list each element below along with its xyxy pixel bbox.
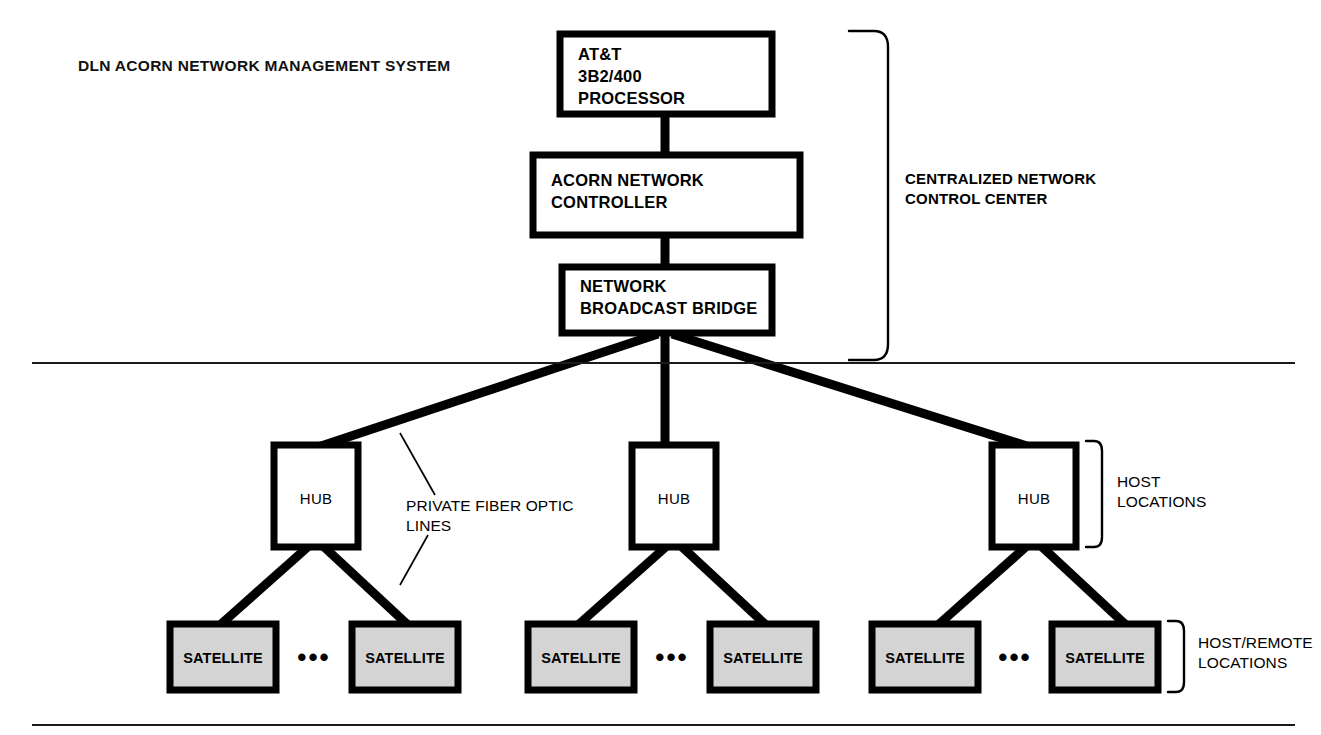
leader-line-fiber-lower <box>400 535 428 585</box>
bracket-host-locations-line1: HOST <box>1117 473 1161 490</box>
node-att-processor-line2: 3B2/400 <box>578 67 642 85</box>
bracket-host-remote-line1: HOST/REMOTE <box>1198 634 1313 651</box>
ellipsis-satellites-left: ••• <box>297 642 330 672</box>
bracket-control-center <box>849 31 888 360</box>
node-satellite-1[interactable]: SATELLITE <box>170 624 276 690</box>
node-satellite-6-label: SATELLITE <box>1065 650 1145 666</box>
node-hub-middle[interactable]: HUB <box>632 445 716 547</box>
node-satellite-1-label: SATELLITE <box>183 650 263 666</box>
ellipsis-satellites-right: ••• <box>998 642 1031 672</box>
link-bridge-hub-left <box>318 334 658 447</box>
link-hub-middle-satellite-2 <box>680 545 766 625</box>
bracket-host-locations <box>1086 441 1102 547</box>
node-hub-left-label: HUB <box>300 490 332 507</box>
node-satellite-5[interactable]: SATELLITE <box>872 624 978 690</box>
bracket-control-center-line1: CENTRALIZED NETWORK <box>905 170 1096 187</box>
node-hub-middle-label: HUB <box>658 490 690 507</box>
node-acorn-controller-line1: ACORN NETWORK <box>551 171 704 189</box>
node-att-processor-line1: AT&T <box>578 45 622 63</box>
link-hub-right-satellite-1 <box>938 545 1028 625</box>
link-hub-left-satellite-1 <box>220 545 310 625</box>
bracket-host-locations-line2: LOCATIONS <box>1117 493 1206 510</box>
node-bridge-line1: NETWORK <box>580 277 667 295</box>
diagram-canvas: DLN ACORN NETWORK MANAGEMENT SYSTEM AT&T… <box>0 0 1321 735</box>
link-bridge-hub-right <box>672 334 1030 447</box>
link-hub-left-satellite-2 <box>322 545 408 625</box>
node-hub-right-label: HUB <box>1018 490 1050 507</box>
node-bridge-line2: BROADCAST BRIDGE <box>580 299 757 317</box>
bracket-host-remote-line2: LOCATIONS <box>1198 654 1287 671</box>
link-hub-right-satellite-2 <box>1040 545 1126 625</box>
node-satellite-4[interactable]: SATELLITE <box>710 624 816 690</box>
node-satellite-2[interactable]: SATELLITE <box>352 624 458 690</box>
node-satellite-3[interactable]: SATELLITE <box>528 624 634 690</box>
node-hub-left[interactable]: HUB <box>274 445 358 547</box>
node-satellite-6[interactable]: SATELLITE <box>1052 624 1158 690</box>
link-hub-middle-satellite-1 <box>578 545 668 625</box>
node-satellite-5-label: SATELLITE <box>885 650 965 666</box>
annotation-fiber-line1: PRIVATE FIBER OPTIC <box>406 497 574 514</box>
network-architecture-diagram: DLN ACORN NETWORK MANAGEMENT SYSTEM AT&T… <box>0 0 1321 735</box>
bracket-control-center-line2: CONTROL CENTER <box>905 190 1048 207</box>
bracket-host-remote-locations <box>1168 621 1184 692</box>
node-network-broadcast-bridge[interactable]: NETWORK BROADCAST BRIDGE <box>562 267 772 333</box>
node-satellite-2-label: SATELLITE <box>365 650 445 666</box>
ellipsis-satellites-middle: ••• <box>655 642 688 672</box>
node-satellite-3-label: SATELLITE <box>541 650 621 666</box>
leader-line-fiber-upper <box>400 433 435 495</box>
page-title: DLN ACORN NETWORK MANAGEMENT SYSTEM <box>78 57 450 74</box>
node-att-processor-line3: PROCESSOR <box>578 89 685 107</box>
node-att-processor[interactable]: AT&T 3B2/400 PROCESSOR <box>560 34 772 114</box>
node-acorn-controller-line2: CONTROLLER <box>551 193 668 211</box>
node-satellite-4-label: SATELLITE <box>723 650 803 666</box>
node-acorn-controller[interactable]: ACORN NETWORK CONTROLLER <box>533 155 800 235</box>
node-hub-right[interactable]: HUB <box>992 445 1076 547</box>
annotation-fiber-line2: LINES <box>406 517 451 534</box>
